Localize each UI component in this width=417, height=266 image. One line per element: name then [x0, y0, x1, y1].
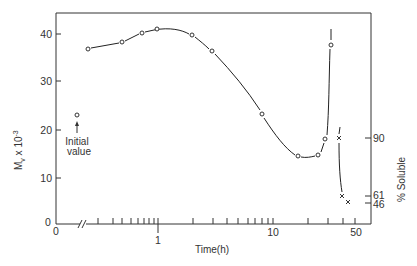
- y-axis-label-main: M: [13, 162, 24, 170]
- plot-frame: [56, 13, 371, 224]
- right-axis-label: % Soluble: [396, 157, 407, 202]
- initial-value-marker: [75, 113, 79, 117]
- y-tick-20: 20: [40, 124, 52, 136]
- right-tick-46: 46: [373, 198, 385, 210]
- x-axis-label: Time(h): [195, 244, 229, 255]
- y-axis-tick-labels: 40 30 20 10 0: [40, 28, 52, 228]
- y-axis-ticks: [56, 34, 61, 178]
- x-tick-50: 50: [350, 226, 362, 238]
- y-axis-label-rest: x 10: [13, 136, 24, 158]
- y-axis-label: Mv x 10-3: [12, 130, 26, 170]
- y-tick-10: 10: [40, 172, 52, 184]
- right-axis-ticks: [365, 138, 371, 203]
- x-tick-0: 0: [53, 225, 59, 237]
- right-axis-label-text: % Soluble: [396, 157, 407, 202]
- mv-curve: [91, 29, 331, 158]
- y-axis-label-exp: -3: [12, 130, 19, 136]
- x-axis-ticks: [98, 218, 355, 233]
- right-tick-90: 90: [373, 132, 385, 144]
- x-axis-tick-labels: 0 1 10 50: [53, 225, 362, 246]
- mv-data-points: [86, 27, 333, 158]
- chart-canvas: 40 30 20 10 0 0 1 10 50 Time(h): [0, 0, 417, 266]
- x-tick-1: 1: [155, 234, 161, 246]
- y-tick-0: 0: [45, 216, 51, 228]
- arrowhead-icon: [75, 121, 79, 126]
- initial-label-line2: value: [67, 146, 91, 157]
- y-tick-30: 30: [40, 75, 52, 87]
- x-tick-10: 10: [267, 226, 279, 238]
- y-tick-40: 40: [40, 28, 52, 40]
- initial-value-annotation: Initial value: [65, 113, 91, 157]
- svg-text:Mv x 10-3: Mv x 10-3: [12, 130, 26, 170]
